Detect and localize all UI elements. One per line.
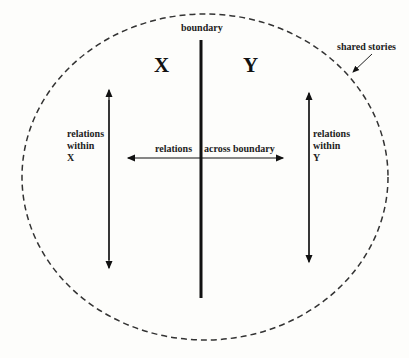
- relations-within-x-label: relations within X: [67, 128, 104, 164]
- relations-within-y-label: relations within Y: [313, 128, 350, 164]
- shared-stories-label: shared stories: [337, 41, 396, 53]
- relations-across-left-label: relations: [155, 143, 192, 155]
- label-line: Y: [313, 152, 350, 164]
- x-label: X: [154, 54, 169, 76]
- label-line: relations: [313, 128, 350, 140]
- label-line: X: [67, 152, 104, 164]
- shared-stories-pointer: [353, 54, 372, 72]
- label-line: within: [67, 140, 104, 152]
- y-label: Y: [243, 54, 258, 76]
- label-line: relations: [67, 128, 104, 140]
- shared-stories-ellipse: [22, 14, 388, 340]
- label-line: within: [313, 140, 350, 152]
- across-boundary-label: across boundary: [204, 143, 275, 155]
- diagram-canvas: [0, 0, 409, 358]
- boundary-label: boundary: [181, 22, 223, 34]
